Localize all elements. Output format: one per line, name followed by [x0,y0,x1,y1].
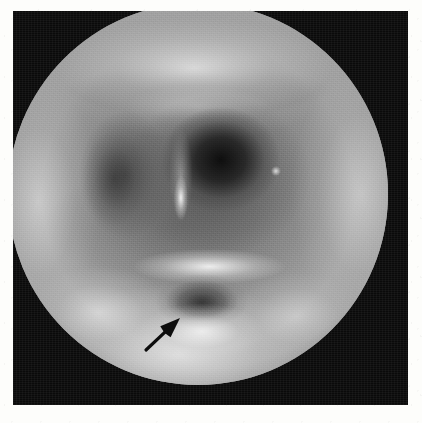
region-lower-bright-ridge [13,11,388,385]
region-mid-posterior-shadow [13,11,388,385]
region-central-cavity-halo [13,11,388,385]
region-upper-mucosal-arch-2 [13,11,388,385]
region-midline-ridge [13,11,388,385]
region-cavity-specular-dot [13,11,388,385]
region-lesion-core [13,11,388,385]
region-inferior-floor [13,11,388,385]
figure-page [0,0,422,423]
region-upper-mucosal-arch [13,11,388,385]
region-left-cavity-edge [13,11,388,385]
region-left-lateral-wall [13,11,388,385]
region-left-cavity [13,11,388,385]
scope-vignette [13,11,388,385]
endoscopic-photo-frame [13,11,408,405]
endoscope-field-of-view [13,11,388,385]
mucosa-base-illumination [13,11,388,385]
region-lesion-bright-rim [13,11,388,385]
region-midline-highlight [13,11,388,385]
film-grain-texture [13,11,388,385]
region-upper-shadow-band [13,11,388,385]
region-inferior-right-bright [13,11,388,385]
region-right-lateral-wall [13,11,388,385]
region-central-airway-cavity [13,11,388,385]
region-lesion [13,11,388,385]
region-inferior-left-bright [13,11,388,385]
